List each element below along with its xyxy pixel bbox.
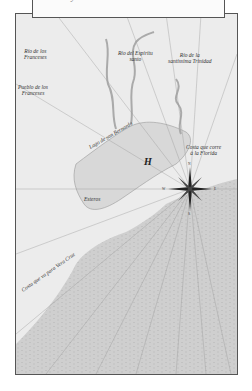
map-graphic: [16, 14, 237, 374]
label-rio-trinidad: Río de lasantíssima Trinidad: [168, 52, 212, 64]
caption-text: ...ido y Río Grande — 1685: [53, 0, 141, 2]
compass-e: E: [214, 187, 216, 191]
marker-h: H: [144, 156, 152, 167]
compass-w: W: [162, 187, 165, 191]
label-rio-franceses: Río de losFranceses: [24, 48, 47, 60]
map-frame: Río de losFranceses Río del Espíritusant…: [15, 13, 238, 375]
label-pueblo-franceses: Pueblo de losFranceses: [18, 84, 48, 96]
river-espiritu: [131, 32, 154, 124]
compass-s: S: [188, 212, 190, 216]
label-esteros: Esteros: [84, 196, 100, 202]
label-rio-espiritu: Río del Espíritusanto: [118, 50, 153, 62]
sea-area: [16, 179, 237, 374]
river-franceses: [106, 39, 116, 129]
compass-n: N: [188, 162, 191, 166]
caption-box: ...ido y Río Grande — 1685: [32, 0, 225, 18]
label-costa-florida: Costa que correà la Florida: [186, 144, 221, 156]
